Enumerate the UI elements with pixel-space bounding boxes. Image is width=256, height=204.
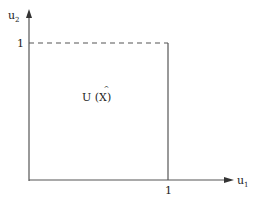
- x-tick-label: 1: [165, 184, 172, 197]
- hat-accent: ^: [104, 85, 110, 93]
- y-axis-arrow-icon: [26, 9, 32, 18]
- unit-square-diagram: u2 1 1 u1 U (X) ^: [0, 0, 256, 204]
- x-axis-arrow-icon: [224, 177, 234, 183]
- y-tick-label: 1: [17, 37, 24, 50]
- x-axis-label: u1: [237, 174, 249, 189]
- y-axis-label: u2: [8, 9, 20, 24]
